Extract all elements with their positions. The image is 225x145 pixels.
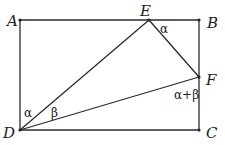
label-c: C	[206, 124, 218, 142]
angle-label-e-alpha: α	[160, 22, 168, 36]
angle-label-f-alpha-plus-beta: α+β	[174, 88, 199, 102]
angle-label-d-beta: β	[51, 106, 58, 120]
point-a-dot	[18, 18, 21, 21]
label-d: D	[2, 124, 15, 142]
point-c-dot	[197, 128, 200, 131]
segment-df	[20, 77, 199, 130]
label-e: E	[139, 2, 151, 20]
segment-de	[20, 20, 149, 130]
label-b: B	[206, 14, 218, 32]
point-f-dot	[197, 75, 200, 78]
geometry-diagram: A B C D E F α α β α+β	[0, 0, 225, 145]
point-d-dot	[18, 128, 21, 131]
angle-label-d-alpha: α	[24, 106, 32, 120]
point-b-dot	[197, 18, 200, 21]
segment-ef	[149, 20, 199, 77]
label-f: F	[205, 71, 217, 89]
label-a: A	[5, 12, 18, 30]
